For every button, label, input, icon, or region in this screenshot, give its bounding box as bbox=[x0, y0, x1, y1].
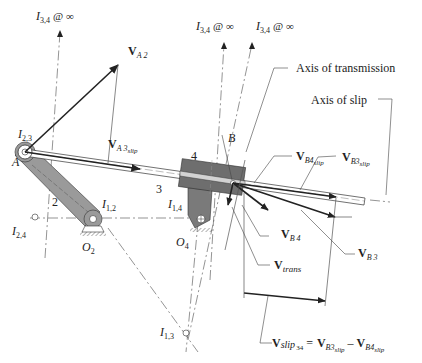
label-axis-slip: Axis of slip bbox=[311, 93, 367, 107]
pivot-i24 bbox=[32, 214, 38, 220]
equation-vslip34: Vslip34=VB3slip–VB4slip bbox=[272, 336, 385, 354]
label-link-2: 2 bbox=[52, 195, 58, 209]
label-o2: O2 bbox=[82, 240, 95, 256]
label-i14: I1,4 bbox=[167, 197, 182, 213]
arrow-head-icon bbox=[221, 42, 227, 49]
mechanism-diagram: I3,4@ ∞ I3,4@ ∞ I3,4@ ∞ Axis of transmis… bbox=[0, 0, 422, 363]
leader-vb4 bbox=[242, 205, 269, 236]
label-axis-transmission: Axis of transmission bbox=[296, 61, 395, 75]
label-vb3: VB 3 bbox=[358, 246, 378, 262]
pivot-i13 bbox=[183, 330, 189, 336]
leader-vb4slip bbox=[254, 156, 292, 183]
label-i23: I2,3 bbox=[17, 127, 32, 143]
axis-of-slip-line bbox=[370, 200, 390, 202]
leader-vb3 bbox=[301, 210, 355, 254]
label-point-a: A bbox=[11, 155, 20, 169]
label-i34-right: I3,4@ ∞ bbox=[255, 19, 294, 35]
label-point-b: B bbox=[228, 131, 236, 145]
label-vb4: VB 4 bbox=[281, 227, 301, 243]
label-link-4: 4 bbox=[191, 149, 197, 163]
line-to-i34-left bbox=[45, 32, 60, 258]
leader-axis-transmission bbox=[246, 68, 288, 152]
vector-vslip34 bbox=[244, 293, 325, 301]
label-vb4slip: VB4slip bbox=[296, 149, 324, 167]
label-i24: I2,4 bbox=[11, 224, 26, 240]
label-vb3slip: VB3slip bbox=[342, 150, 370, 168]
label-i34-mid: I3,4@ ∞ bbox=[195, 19, 234, 35]
label-va2: VA 2 bbox=[128, 44, 147, 60]
label-vtrans: Vtrans bbox=[274, 258, 302, 274]
label-i12: I1,2 bbox=[101, 197, 116, 213]
label-i13: I1,3 bbox=[159, 325, 174, 341]
label-i34-left: I3,4@ ∞ bbox=[35, 9, 74, 25]
arrow-head-icon bbox=[249, 42, 255, 49]
leader-vslip34 bbox=[260, 296, 272, 343]
label-link-3: 3 bbox=[156, 182, 162, 196]
vector-va2 bbox=[25, 65, 118, 152]
leader-axis-slip bbox=[378, 99, 392, 195]
label-o4: O4 bbox=[176, 235, 189, 251]
link-4 bbox=[178, 159, 245, 228]
arrow-head-icon bbox=[57, 30, 63, 37]
line-to-i34-mid bbox=[210, 44, 224, 280]
label-va3slip: VA 3slip bbox=[108, 137, 138, 155]
